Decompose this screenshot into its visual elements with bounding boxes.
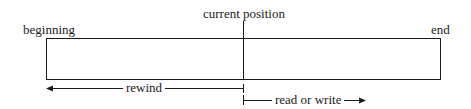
current-position-label: current position <box>203 7 285 21</box>
read-write-arrowhead-icon <box>359 98 366 104</box>
beginning-label: beginning <box>23 23 75 37</box>
rewind-label: rewind <box>123 81 165 95</box>
rewind-arrowhead-icon <box>46 86 53 92</box>
read-or-write-label: read or write <box>272 93 344 107</box>
end-label: end <box>431 23 450 37</box>
